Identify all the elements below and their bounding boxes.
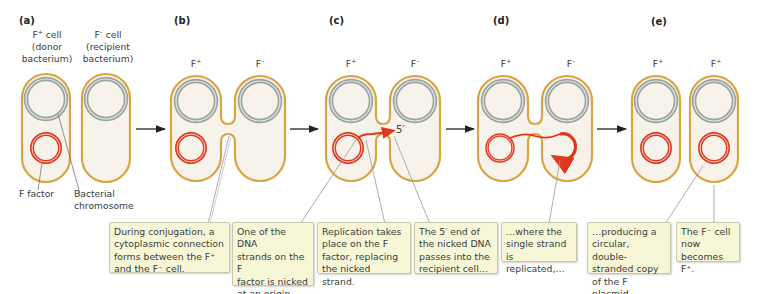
panel-b-cells bbox=[171, 76, 285, 224]
panel-b-f-minus-label: F– bbox=[250, 58, 270, 70]
panel-d-f-minus-label: F– bbox=[561, 58, 581, 70]
panel-c-f-plus-label: F+ bbox=[341, 58, 361, 70]
panel-b-f-plus-label: F+ bbox=[186, 58, 206, 70]
panel-d-f-plus-label: F+ bbox=[496, 58, 516, 70]
caption-b-cytoplasmic-connection: During conjugation, a cytoplasmic connec… bbox=[109, 222, 230, 273]
panel-c-cells bbox=[300, 76, 440, 224]
five-prime-end-label: 5′ bbox=[396, 124, 405, 136]
f-factor-label: F factor bbox=[19, 188, 54, 200]
caption-c-five-prime-end: The 5′ end of the nicked DNA passes into… bbox=[414, 222, 498, 274]
panel-d-cells bbox=[478, 76, 592, 224]
recipient-cell-label: F– cell (recipient bacterium) bbox=[78, 29, 138, 65]
panel-e-cells bbox=[632, 76, 738, 224]
donor-cell-label: F+ cell (donor bacterium) bbox=[18, 29, 76, 65]
bacterial-chromosome-label: Bacterial chromosome bbox=[74, 188, 134, 212]
panel-c-f-minus-label: F– bbox=[405, 58, 425, 70]
panel-e-f-plus-label-2: F+ bbox=[706, 58, 726, 70]
caption-c-replication: Replication takes place on the F factor,… bbox=[317, 222, 411, 274]
panel-b-letter: (b) bbox=[174, 15, 190, 26]
caption-c-strand-nicked: One of the DNA strands on the F factor i… bbox=[232, 222, 314, 286]
panel-e-f-plus-label-1: F+ bbox=[648, 58, 668, 70]
panel-a-cells bbox=[22, 74, 130, 194]
panel-e-letter: (e) bbox=[651, 16, 667, 27]
caption-d-single-strand-replicated: …where the single strand is replicated,… bbox=[501, 222, 577, 262]
caption-e-double-stranded-copy: …producing a circular, double- stranded … bbox=[587, 222, 671, 274]
panel-a-letter: (a) bbox=[19, 15, 35, 26]
panel-c-letter: (c) bbox=[329, 15, 344, 26]
caption-e-becomes-f-plus: The F⁻ cell now becomes F⁺. bbox=[676, 222, 740, 262]
panel-d-letter: (d) bbox=[493, 15, 509, 26]
